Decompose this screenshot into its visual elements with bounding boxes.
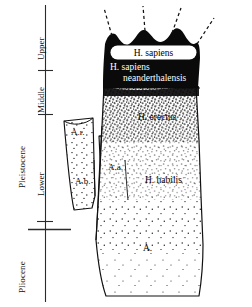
taxon-label-h-habilis: H. habilis bbox=[145, 175, 182, 185]
time-axis bbox=[28, 5, 71, 302]
taxon-label-h-erectus: H. erectus bbox=[138, 112, 177, 122]
taxon-label-a-boisei: A.b. bbox=[75, 176, 91, 186]
taxon-label-a-robustus: A.r. bbox=[71, 127, 85, 137]
taxon-label-australopithecus: A. bbox=[143, 243, 152, 253]
epoch-label-pliocene: Pliocene bbox=[17, 261, 27, 293]
subdivision-label-middle: Middle bbox=[36, 87, 46, 113]
taxon-label-h-sapiens-neanderthalensis-line1: H. sapiens bbox=[110, 62, 150, 72]
dashed-line-1 bbox=[104, 8, 112, 36]
taxon-label-h-sapiens-neanderthalensis-line2: neanderthalensis bbox=[123, 73, 186, 83]
taxon-label-a-africanus: A.a. bbox=[108, 162, 123, 172]
dashed-line-4 bbox=[197, 18, 214, 44]
phylogeny-figure: Pleistocene Pliocene Upper Middle Lower … bbox=[0, 0, 252, 307]
subdivision-label-lower: Lower bbox=[36, 173, 46, 197]
dashed-projections bbox=[104, 6, 214, 44]
epoch-label-pleistocene: Pleistocene bbox=[17, 146, 27, 188]
subdivision-label-upper: Upper bbox=[36, 38, 46, 61]
dashed-line-2 bbox=[143, 6, 145, 31]
taxon-label-h-sapiens: H. sapiens bbox=[111, 46, 196, 59]
